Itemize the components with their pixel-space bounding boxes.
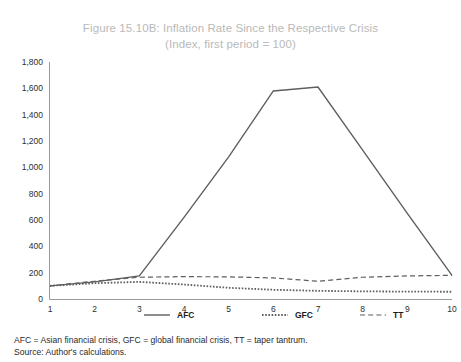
x-tick-label: 3 [137, 304, 142, 314]
line-chart-plot: 02004006008001,0001,2001,4001,6001,800 1… [0, 0, 461, 330]
legend-label-tt: TT [393, 310, 404, 320]
x-tick-label: 10 [447, 304, 457, 314]
footnote-abbreviations: AFC = Asian financial crisis, GFC = glob… [14, 335, 454, 347]
legend-label-afc: AFC [177, 310, 194, 320]
y-tick-label: 1,000 [22, 162, 44, 172]
figure-footnotes: AFC = Asian financial crisis, GFC = glob… [14, 335, 454, 358]
x-tick-label: 8 [360, 304, 365, 314]
x-tick-label: 9 [405, 304, 410, 314]
y-tick-label: 800 [29, 189, 43, 199]
x-tick-label: 5 [226, 304, 231, 314]
x-tick-label: 2 [92, 304, 97, 314]
y-tick-label: 0 [38, 294, 43, 304]
x-tick-label: 7 [316, 304, 321, 314]
y-tick-label: 1,400 [22, 110, 44, 120]
y-tick-label: 600 [29, 215, 43, 225]
x-tick-label: 6 [271, 304, 276, 314]
y-tick-label: 400 [29, 241, 43, 251]
legend-label-gfc: GFC [295, 310, 313, 320]
series-line-gfc [50, 282, 452, 292]
y-tick-label: 200 [29, 268, 43, 278]
series-line-afc [50, 87, 452, 286]
footnote-source: Source: Author's calculations. [14, 347, 454, 359]
series-line-tt [50, 275, 452, 286]
y-tick-label: 1,800 [22, 57, 44, 67]
figure-container: Figure 15.10B: Inflation Rate Since the … [0, 0, 461, 362]
y-tick-label: 1,200 [22, 136, 44, 146]
x-tick-label: 1 [48, 304, 53, 314]
y-axis-tick-labels: 02004006008001,0001,2001,4001,6001,800 [22, 57, 44, 304]
y-tick-label: 1,600 [22, 83, 44, 93]
